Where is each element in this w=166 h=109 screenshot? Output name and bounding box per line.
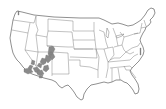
highlighted-counties xyxy=(24,46,55,78)
lake-erie xyxy=(116,34,124,38)
lake-michigan xyxy=(106,28,109,38)
us-outline xyxy=(10,8,155,100)
chesapeake-mark xyxy=(140,48,141,55)
puget-sound-mark xyxy=(18,11,19,15)
us-map xyxy=(0,0,166,109)
